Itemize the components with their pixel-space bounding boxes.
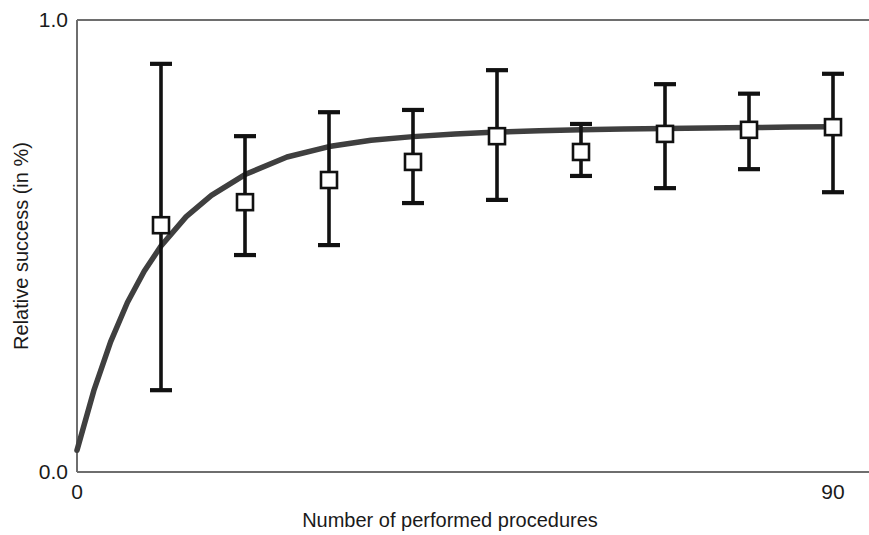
learning-curve-figure: 1.0 0.0 0 90 Number of performed procedu… bbox=[0, 0, 869, 535]
data-point-group bbox=[150, 64, 172, 390]
y-axis-title: Relative success (in %) bbox=[10, 142, 32, 350]
y-axis-tick-bottom: 0.0 bbox=[39, 460, 68, 483]
data-point-group bbox=[318, 112, 340, 245]
data-point-marker bbox=[489, 128, 505, 144]
data-point-group bbox=[822, 74, 844, 192]
data-point-group bbox=[486, 70, 508, 200]
plot-frame bbox=[77, 20, 869, 472]
data-point-marker bbox=[237, 194, 253, 210]
data-point-group bbox=[738, 94, 760, 169]
x-axis-tick-left: 0 bbox=[71, 480, 83, 503]
fit-curve bbox=[77, 127, 833, 451]
data-point-marker bbox=[405, 154, 421, 170]
data-point-marker bbox=[153, 217, 169, 233]
data-point-marker bbox=[573, 144, 589, 160]
data-point-group bbox=[654, 84, 676, 188]
data-point-marker bbox=[825, 119, 841, 135]
x-axis-title: Number of performed procedures bbox=[302, 509, 598, 531]
data-point-marker bbox=[657, 126, 673, 142]
data-point-group bbox=[402, 110, 424, 203]
chart-svg: 1.0 0.0 0 90 Number of performed procedu… bbox=[0, 0, 869, 535]
x-axis-tick-right: 90 bbox=[821, 480, 844, 503]
data-point-marker bbox=[741, 122, 757, 138]
data-point-marker bbox=[321, 172, 337, 188]
data-point-group bbox=[234, 136, 256, 255]
y-axis-tick-top: 1.0 bbox=[39, 8, 68, 31]
data-points-layer bbox=[150, 64, 844, 390]
